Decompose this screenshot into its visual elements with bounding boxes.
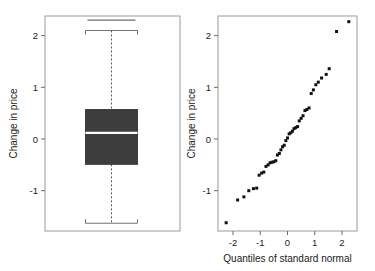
data-point bbox=[278, 152, 281, 155]
boxplot-panel: -1012Change in price bbox=[0, 0, 190, 271]
y-axis-tick-label: -1 bbox=[30, 185, 38, 196]
data-point bbox=[291, 130, 294, 133]
data-point bbox=[279, 148, 282, 151]
data-point-group bbox=[225, 20, 351, 224]
box-body bbox=[86, 110, 138, 165]
y-axis-tick-label: 1 bbox=[33, 82, 38, 93]
x-axis-title: Quantiles of standard normal bbox=[223, 253, 351, 264]
data-point bbox=[296, 125, 299, 128]
data-point bbox=[298, 119, 301, 122]
x-axis-tick-label: -1 bbox=[256, 237, 264, 248]
qq-plot-svg: -1012-2-1012Change in priceQuantiles of … bbox=[185, 0, 375, 271]
qq-panel: -1012-2-1012Change in priceQuantiles of … bbox=[185, 0, 375, 271]
x-axis-tick-label: 0 bbox=[285, 237, 290, 248]
x-axis-tick-label: -2 bbox=[229, 237, 237, 248]
data-point bbox=[314, 83, 317, 86]
y-axis-tick-label: 2 bbox=[33, 30, 38, 41]
data-point bbox=[317, 81, 320, 84]
data-point bbox=[300, 117, 303, 120]
y-axis-tick-label: 0 bbox=[33, 134, 38, 145]
data-point bbox=[225, 221, 228, 224]
y-axis-tick-label: 0 bbox=[206, 134, 211, 145]
data-point bbox=[283, 144, 286, 147]
data-point bbox=[255, 187, 258, 190]
data-point bbox=[284, 139, 287, 142]
data-point bbox=[242, 195, 245, 198]
data-point bbox=[310, 92, 313, 95]
data-point bbox=[236, 198, 239, 201]
y-axis-tick-label: 1 bbox=[206, 82, 211, 93]
data-point bbox=[335, 30, 338, 33]
data-point bbox=[247, 189, 250, 192]
boxplot-svg: -1012Change in price bbox=[0, 0, 190, 271]
data-point bbox=[325, 73, 328, 76]
data-point bbox=[320, 77, 323, 80]
x-axis-tick-label: 2 bbox=[339, 237, 344, 248]
data-point bbox=[347, 20, 350, 23]
data-point bbox=[312, 88, 315, 91]
data-point bbox=[308, 106, 311, 109]
y-axis-tick-label: 2 bbox=[206, 30, 211, 41]
data-point bbox=[302, 114, 305, 117]
data-point bbox=[262, 171, 265, 174]
statistics-figure: -1012Change in price -1012-2-1012Change … bbox=[0, 0, 375, 271]
y-axis-title: Change in price bbox=[8, 88, 19, 158]
x-axis-tick-label: 1 bbox=[312, 237, 317, 248]
data-point bbox=[252, 187, 255, 190]
data-point bbox=[274, 159, 277, 162]
data-point bbox=[328, 67, 331, 70]
data-point bbox=[286, 136, 289, 139]
y-axis-tick-label: -1 bbox=[203, 185, 211, 196]
y-axis-title: Change in price bbox=[186, 88, 197, 158]
